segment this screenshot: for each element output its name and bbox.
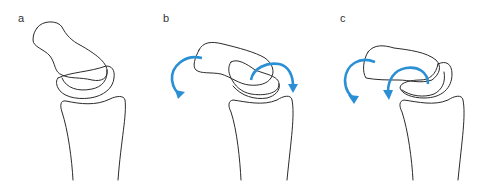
bone-diagram xyxy=(155,0,325,189)
distal-carpal-bone xyxy=(33,22,107,81)
panel-b: b xyxy=(155,0,325,189)
proximal-inner-arc xyxy=(402,72,445,96)
arrowhead-icon xyxy=(288,84,298,93)
proximal-carpal-bone xyxy=(57,66,115,99)
distal-carpal-bone xyxy=(364,46,440,82)
figure: a b c xyxy=(0,0,485,189)
bone-diagram xyxy=(0,0,160,189)
arrowhead-icon xyxy=(175,90,185,99)
radius-bone xyxy=(229,96,293,180)
arrowhead-icon xyxy=(383,90,393,100)
distal-carpal-bone xyxy=(194,42,273,85)
proximal-inner-arc xyxy=(233,84,279,99)
panel-a: a xyxy=(0,0,160,189)
radius-bone xyxy=(400,96,464,180)
arrowhead-icon xyxy=(348,95,359,104)
radius-bone xyxy=(61,97,126,181)
rotation-arrow-left xyxy=(172,57,202,94)
panel-c: c xyxy=(320,0,485,189)
bone-diagram xyxy=(320,0,485,189)
